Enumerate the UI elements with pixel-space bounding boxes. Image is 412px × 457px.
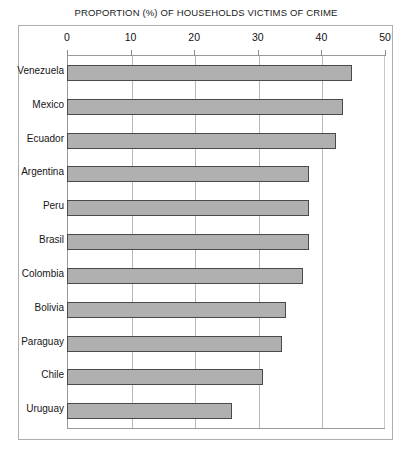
bar-mexico bbox=[67, 99, 343, 115]
x-axis-tick-mark bbox=[385, 50, 386, 56]
bars-layer bbox=[67, 56, 385, 428]
bar-brasil bbox=[67, 234, 309, 250]
plot-bottom-axis bbox=[67, 428, 385, 429]
category-label-mexico: Mexico bbox=[0, 99, 64, 110]
category-label-uruguay: Uruguay bbox=[0, 403, 64, 414]
category-label-argentina: Argentina bbox=[0, 166, 64, 177]
x-axis-tick-label: 40 bbox=[316, 31, 328, 43]
bar-row bbox=[67, 259, 385, 293]
bar-row bbox=[67, 157, 385, 191]
x-axis-tick-label: 50 bbox=[379, 31, 391, 43]
bar-argentina bbox=[67, 166, 309, 182]
bar-row bbox=[67, 293, 385, 327]
category-label-colombia: Colombia bbox=[0, 268, 64, 279]
bar-row bbox=[67, 327, 385, 361]
bar-row bbox=[67, 124, 385, 158]
bar-row bbox=[67, 394, 385, 428]
category-label-venezuela: Venezuela bbox=[0, 65, 64, 76]
category-label-peru: Peru bbox=[0, 200, 64, 211]
bar-row bbox=[67, 90, 385, 124]
crime-victims-bar-chart: PROPORTION (%) OF HOUSEHOLDS VICTIMS OF … bbox=[0, 0, 412, 457]
chart-title: PROPORTION (%) OF HOUSEHOLDS VICTIMS OF … bbox=[0, 7, 412, 18]
bar-ecuador bbox=[67, 133, 336, 149]
category-label-brasil: Brasil bbox=[0, 234, 64, 245]
bar-row bbox=[67, 191, 385, 225]
x-axis-tick-label: 0 bbox=[64, 31, 70, 43]
bar-colombia bbox=[67, 268, 303, 284]
x-axis-tick-label: 20 bbox=[188, 31, 200, 43]
category-label-paraguay: Paraguay bbox=[0, 336, 64, 347]
bar-row bbox=[67, 225, 385, 259]
bar-bolivia bbox=[67, 302, 286, 318]
bar-row bbox=[67, 360, 385, 394]
x-axis-tick-labels: 01020304050 bbox=[0, 31, 412, 47]
bar-venezuela bbox=[67, 65, 352, 81]
bar-row bbox=[67, 56, 385, 90]
x-axis-tick-label: 30 bbox=[252, 31, 264, 43]
bar-uruguay bbox=[67, 403, 232, 419]
category-label-chile: Chile bbox=[0, 369, 64, 380]
bar-peru bbox=[67, 200, 309, 216]
y-axis-category-labels: VenezuelaMexicoEcuadorArgentinaPeruBrasi… bbox=[0, 56, 64, 428]
category-label-ecuador: Ecuador bbox=[0, 133, 64, 144]
x-axis-tick-label: 10 bbox=[125, 31, 137, 43]
bar-chile bbox=[67, 369, 263, 385]
category-label-bolivia: Bolivia bbox=[0, 302, 64, 313]
bar-paraguay bbox=[67, 336, 282, 352]
